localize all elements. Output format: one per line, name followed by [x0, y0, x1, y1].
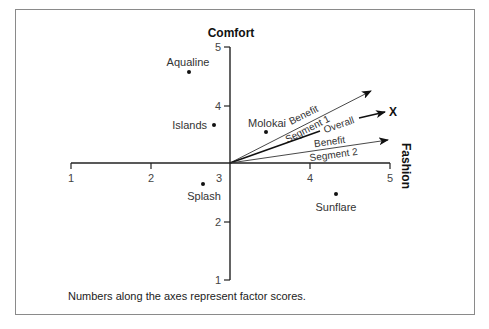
point-aqualine: Aqualine [167, 56, 210, 74]
x-axis: 1 2 3 4 5 Fashion [68, 143, 413, 189]
y-tick-2: 2 [215, 216, 221, 228]
point-splash: Splash [187, 182, 221, 202]
point-molokai: Molokai [248, 117, 286, 134]
footnote: Numbers along the axes represent factor … [68, 290, 306, 302]
x-tick-3: 3 [216, 172, 222, 184]
x-tick-2: 2 [148, 172, 154, 184]
point-label: Islands [172, 119, 207, 131]
vector-end-label: X [389, 105, 397, 119]
y-tick-4: 4 [215, 100, 221, 112]
x-tick-4: 4 [307, 172, 313, 184]
x-tick-1: 1 [68, 172, 74, 184]
point-islands: Islands [172, 119, 216, 131]
y-tick-1: 1 [215, 274, 221, 286]
x-axis-title: Fashion [399, 143, 413, 189]
point-label: Molokai [248, 117, 286, 129]
point-label: Sunflare [316, 201, 357, 213]
y-axis-title: Comfort [208, 26, 255, 40]
vector-benefit-segment-2: Benefit Segment 2 [230, 134, 388, 163]
y-tick-5: 5 [215, 41, 221, 53]
point-sunflare: Sunflare [316, 192, 357, 213]
x-tick-5: 5 [387, 172, 393, 184]
point-label: Aqualine [167, 56, 210, 68]
perceptual-map: 1 2 3 4 5 Fashion 5 4 2 1 Comfort Aquali… [0, 0, 489, 329]
point-label: Splash [187, 190, 221, 202]
